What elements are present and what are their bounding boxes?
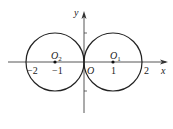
tick-label-1: 1: [111, 65, 116, 76]
x-axis-label: x: [160, 65, 166, 76]
y-axis-label: y: [73, 7, 79, 18]
center-label-o1: O1: [110, 50, 121, 63]
center-label-o2: O2: [51, 50, 62, 63]
tick-label-neg1: −1: [52, 65, 63, 76]
tick-label-neg2: −2: [27, 65, 38, 76]
tick-label-2: 2: [144, 65, 149, 76]
origin-label: O: [87, 65, 94, 76]
coordinate-diagram: y x O −2 −1 1 2 O2 O1: [0, 0, 173, 129]
